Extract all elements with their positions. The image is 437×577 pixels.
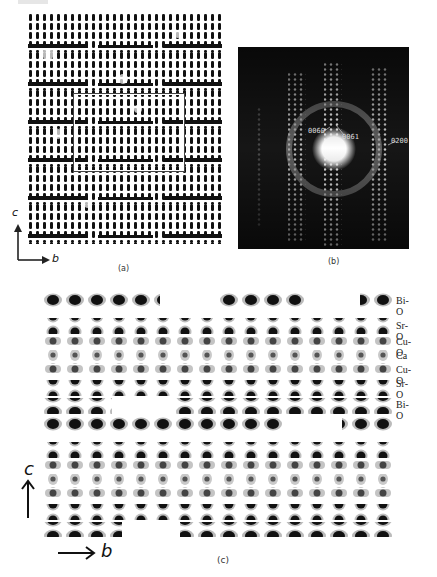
panel-label-b: (b)	[328, 257, 339, 266]
spot-label-0200: 0200	[391, 137, 408, 145]
axis-c-label-a: c	[12, 206, 18, 219]
layer-label-bi-o-top: Bi-O	[396, 295, 409, 317]
page-header-fragment	[18, 0, 48, 4]
atomic-layer-image	[42, 292, 394, 537]
arrow-right-icon	[56, 545, 98, 561]
hrtem-image-panel-a	[28, 14, 222, 244]
axis-b-label-c: b	[101, 540, 112, 561]
arrow-up-icon	[14, 224, 22, 232]
panel-label-a: (a)	[118, 264, 129, 273]
panel-label-c: (c)	[217, 555, 229, 565]
axis-b-label-a: b	[52, 252, 59, 265]
diffraction-pattern-panel-b: 0060 0061 0200	[238, 47, 409, 249]
arrow-up-icon	[20, 478, 36, 520]
layer-label-bi-o-bottom: Bi-O	[396, 399, 409, 421]
axis-c-label-c: c	[24, 458, 34, 479]
highlight-rectangle	[73, 93, 185, 172]
spot-label-0060: 0060	[308, 127, 325, 135]
diffraction-image	[238, 47, 409, 249]
axes-indicator-a	[12, 222, 57, 266]
simulated-image-panel-c: Bi-O Sr-O Cu-O Ca Cu-O Sr-O Bi-O	[42, 292, 394, 537]
spot-label-0061: 0061	[342, 133, 359, 141]
layer-label-ca: Ca	[396, 350, 407, 361]
arrow-right-icon	[42, 256, 50, 264]
layer-label-sr-o-bottom: Sr-O	[396, 378, 408, 400]
